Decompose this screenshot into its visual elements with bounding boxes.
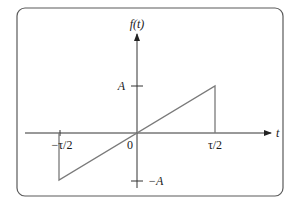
tick-label-tau-half: τ/2	[208, 138, 222, 152]
t-axis-label: t	[276, 126, 280, 140]
tick-label-neg-tau-half: −τ/2	[52, 138, 73, 152]
signal-diagram: f(t) t −τ/2 0 τ/2 A −A	[0, 0, 294, 202]
f-axis-label: f(t)	[130, 17, 145, 31]
tick-label-zero: 0	[127, 138, 133, 152]
tick-label-neg-A: −A	[148, 174, 164, 188]
diagram-frame	[17, 8, 283, 196]
tick-label-A: A	[117, 79, 126, 93]
